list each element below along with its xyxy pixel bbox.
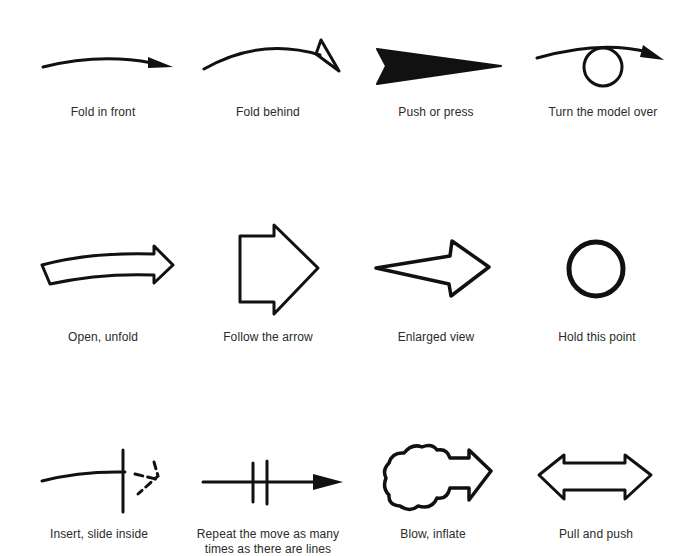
label-pull-and-push: Pull and push [496, 527, 694, 542]
double-headed-arrow-icon [0, 0, 694, 520]
label-repeat-move-line2: times as there are lines [168, 542, 368, 556]
